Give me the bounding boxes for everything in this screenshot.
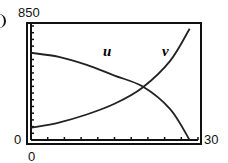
chart-plot: u v: [0, 0, 228, 163]
series-label-v: v: [162, 43, 169, 59]
plot-frame: [27, 23, 201, 144]
series-label-u: u: [103, 43, 111, 59]
